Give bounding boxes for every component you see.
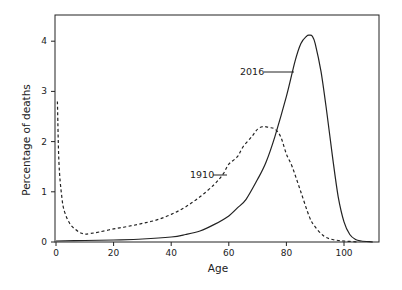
annotation-2016-label: 2016 — [240, 66, 264, 77]
x-axis-ticks: 020406080100 — [53, 242, 353, 258]
x-tick-label: 40 — [165, 248, 177, 258]
x-tick-label: 60 — [223, 248, 235, 258]
x-axis-label: Age — [208, 262, 228, 274]
death-age-distribution-chart: 01234 020406080100 2016 1910 Age Percent… — [0, 0, 402, 290]
y-tick-label: 4 — [41, 36, 47, 46]
y-tick-label: 0 — [41, 237, 47, 247]
y-axis-ticks: 01234 — [41, 36, 55, 247]
y-axis-label: Percentage of deaths — [20, 84, 32, 196]
x-tick-label: 100 — [335, 248, 352, 258]
y-tick-label: 2 — [41, 137, 47, 147]
y-tick-label: 1 — [41, 187, 47, 197]
x-tick-label: 20 — [108, 248, 120, 258]
y-tick-label: 3 — [41, 86, 47, 96]
annotation-1910-label: 1910 — [190, 169, 214, 180]
x-tick-label: 80 — [281, 248, 293, 258]
plot-frame — [55, 15, 379, 242]
series-line-2016 — [56, 35, 373, 242]
series-lines — [56, 35, 373, 242]
x-tick-label: 0 — [53, 248, 59, 258]
